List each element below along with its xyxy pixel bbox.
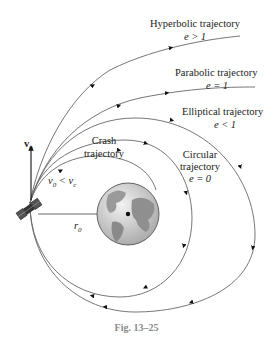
- trajectory-diagram: [0, 0, 273, 344]
- hyperbolic-label: Hyperbolic trajectory: [150, 18, 240, 30]
- circular-label-2: trajectory: [170, 161, 230, 173]
- satellite-icon: [16, 198, 42, 219]
- crash-label-2: trajectory: [74, 148, 134, 160]
- orbit-trajectories-figure: Hyperbolic trajectory e > 1 Parabolic tr…: [0, 0, 273, 344]
- circular-condition: e = 0: [170, 173, 230, 185]
- radius-label: r0: [74, 220, 82, 236]
- figure-caption: Fig. 13–25: [0, 322, 273, 333]
- crash-condition: v0 < vc: [48, 175, 76, 191]
- elliptical-label: Elliptical trajectory: [182, 106, 263, 118]
- crash-label-1: Crash: [74, 135, 134, 147]
- earth-icon: [97, 183, 159, 245]
- velocity-label: v0: [24, 138, 33, 154]
- hyperbolic-condition: e > 1: [170, 31, 220, 43]
- parabolic-label: Parabolic trajectory: [175, 67, 258, 79]
- parabolic-condition: e = 1: [192, 80, 242, 92]
- elliptical-condition: e < 1: [200, 119, 250, 131]
- circular-label-1: Circular: [170, 149, 230, 161]
